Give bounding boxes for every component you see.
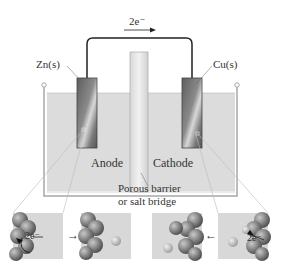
cu-atom-deposited (169, 221, 183, 235)
inset-anode-ion-released (78, 212, 131, 260)
barrier-label-line1: Porous barrier (118, 182, 181, 194)
inset-cathode-electron-label: 2e⁻ (247, 232, 262, 244)
zn-ion (111, 236, 121, 246)
galvanic-cell-diagram (0, 0, 281, 274)
inset-anode-electron-label: 2e⁻ (25, 230, 40, 242)
cu-electrode-label: Cu(s) (213, 58, 237, 70)
cathode-label: Cathode (153, 157, 193, 169)
electron-flow-arrow-icon (124, 28, 156, 33)
electron-flow-label: 2e⁻ (129, 15, 145, 27)
barrier-label-line2: or salt bridge (118, 195, 176, 207)
zn-electrode-label: Zn(s) (36, 58, 60, 70)
zn-anode-electrode (77, 78, 97, 148)
inset-cathode-deposited (152, 212, 204, 261)
porous-barrier (130, 52, 148, 192)
cu-cathode-electrode (182, 78, 202, 148)
inset-arrow-left-icon: ← (205, 229, 217, 241)
inset-cathode-reduction (218, 212, 271, 261)
inset-arrow-right-icon: → (67, 229, 79, 241)
cu-ion (163, 243, 173, 253)
anode-label: Anode (91, 157, 123, 169)
